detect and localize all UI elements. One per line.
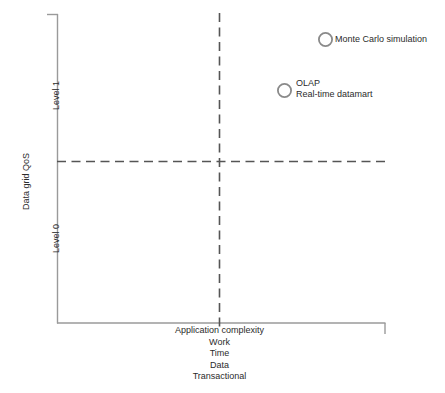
y-axis-title: Data grid QoS bbox=[21, 153, 32, 210]
quadrant-chart-figure: Data grid QoS Level 1 Level 0 Monte Carl… bbox=[0, 0, 445, 393]
x-axis-title: Application complexity bbox=[119, 325, 320, 337]
data-point-label-olap-line2: Real-time datamart bbox=[296, 89, 373, 100]
x-axis-sublabel-work: Work bbox=[119, 337, 320, 349]
data-point-marker-olap[interactable] bbox=[278, 84, 291, 97]
data-point-label-olap: OLAP Real-time datamart bbox=[296, 78, 373, 100]
y-axis-label-level-1: Level 1 bbox=[51, 81, 62, 110]
data-point-label-olap-line1: OLAP bbox=[296, 78, 373, 89]
x-axis-sublabel-time: Time bbox=[119, 348, 320, 360]
x-axis-label-group: Application complexity Work Time Data Tr… bbox=[119, 325, 320, 383]
data-point-marker-monte-carlo[interactable] bbox=[319, 33, 332, 46]
x-axis-sublabel-transactional: Transactional bbox=[119, 371, 320, 383]
data-point-label-monte-carlo: Monte Carlo simulation bbox=[335, 34, 427, 45]
y-axis-label-level-0: Level 0 bbox=[51, 224, 62, 253]
x-axis-sublabel-data: Data bbox=[119, 360, 320, 372]
